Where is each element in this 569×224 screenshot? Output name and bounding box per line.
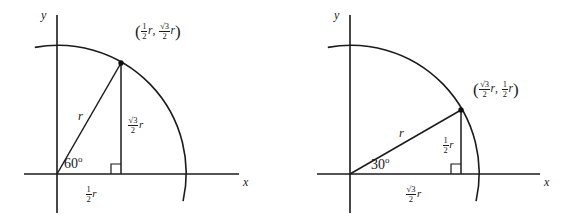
coordinate-separator-left: ,: [152, 24, 155, 36]
horizontal-leg-fraction-left: 1 2: [86, 185, 92, 204]
vertical-leg-label-right: 1 2 r: [442, 136, 454, 155]
coordinate-open-paren-left: (: [135, 22, 141, 41]
right-angle-marker-right: [451, 164, 461, 174]
panel-30-graphics: [317, 15, 540, 213]
horizontal-leg-denominator-left: 2: [86, 195, 92, 204]
degree-symbol-right: o: [385, 155, 390, 165]
vertical-leg-label-left: √3 2 r: [127, 116, 143, 135]
angle-label-right: 30o: [371, 156, 390, 172]
horizontal-leg-label-right: √3 2 r: [405, 185, 421, 204]
y-axis-label-left: y: [41, 9, 46, 21]
vertical-leg-fraction-right: 1 2: [443, 136, 449, 155]
coordinate-label-right: ( √3 2 r, 1 2 r): [473, 80, 519, 99]
coordinate-open-paren-right: (: [473, 80, 479, 99]
right-angle-marker-left: [111, 164, 121, 174]
vertical-leg-fraction-left: √3 2: [128, 116, 139, 135]
horizontal-leg-fraction-right: √3 2: [406, 185, 417, 204]
point-marker-left: [118, 60, 123, 65]
x-axis-label-left: x: [243, 176, 248, 188]
coordinate-x-fraction-left: 1 2: [141, 22, 147, 41]
coordinate-x-denominator-right: 2: [479, 90, 490, 99]
vertical-leg-denominator-right: 2: [443, 146, 449, 155]
angle-value-left: 60: [64, 156, 78, 171]
coordinate-y-fraction-right: 1 2: [502, 80, 508, 99]
horizontal-leg-denominator-right: 2: [406, 195, 417, 204]
hypotenuse-label-right: r: [399, 127, 404, 140]
horizontal-leg-variable-left: r: [92, 187, 96, 199]
vertical-leg-variable-right: r: [449, 138, 453, 150]
coordinate-label-left: ( 1 2 r, √3 2 r): [135, 22, 181, 41]
coordinate-x-denominator-left: 2: [141, 32, 147, 41]
angle-value-right: 30: [371, 157, 385, 172]
coordinate-y-fraction-left: √3 2: [159, 22, 170, 41]
horizontal-leg-variable-right: r: [417, 187, 421, 199]
coordinate-x-fraction-right: √3 2: [479, 80, 490, 99]
hypotenuse-label-left: r: [78, 110, 83, 123]
trigonometry-figure: y x 60o r √3 2 r 1 2 r ( 1 2 r, √3 2 r) …: [0, 0, 569, 224]
horizontal-leg-label-left: 1 2 r: [85, 185, 97, 204]
y-axis-label-right: y: [334, 9, 339, 21]
point-marker-right: [458, 107, 463, 112]
coordinate-y-denominator-right: 2: [502, 90, 508, 99]
vertical-leg-denominator-left: 2: [128, 126, 139, 135]
angle-label-left: 60o: [64, 155, 83, 171]
x-axis-label-right: x: [544, 176, 549, 188]
degree-symbol-left: o: [78, 154, 83, 164]
coordinate-close-paren-left: ): [175, 22, 181, 41]
coordinate-separator-right: ,: [495, 82, 498, 94]
vertical-leg-variable-left: r: [139, 118, 143, 130]
coordinate-close-paren-right: ): [513, 80, 519, 99]
panel-60-graphics: [24, 15, 239, 213]
coordinate-y-denominator-left: 2: [159, 32, 170, 41]
